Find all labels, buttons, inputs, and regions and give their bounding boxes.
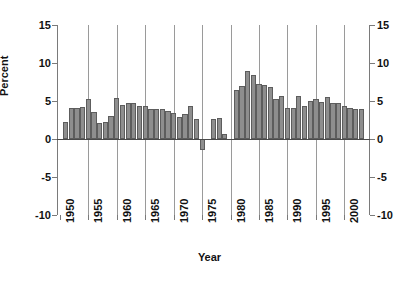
bar bbox=[194, 119, 199, 139]
bar bbox=[239, 86, 244, 139]
x-tick-label: 2000 bbox=[349, 199, 360, 223]
bar-series bbox=[57, 25, 370, 215]
y-tick bbox=[370, 215, 375, 216]
bar bbox=[188, 106, 193, 139]
bar bbox=[296, 96, 301, 139]
y-tick bbox=[370, 139, 375, 140]
y-tick bbox=[52, 215, 57, 216]
x-tick bbox=[202, 215, 203, 220]
x-tick-label: 1985 bbox=[264, 199, 275, 223]
bar bbox=[137, 106, 142, 139]
x-tick bbox=[145, 215, 146, 220]
bar bbox=[120, 105, 125, 139]
bar bbox=[359, 109, 364, 139]
y-tick-label: 5 bbox=[377, 96, 411, 107]
bar bbox=[200, 139, 205, 150]
bar bbox=[268, 87, 273, 139]
y-tick-label: 15 bbox=[377, 20, 411, 31]
bar bbox=[182, 114, 187, 139]
x-tick-label: 1990 bbox=[292, 199, 303, 223]
y-tick-label: 10 bbox=[17, 58, 51, 69]
bar bbox=[69, 108, 74, 139]
bar bbox=[154, 109, 159, 139]
x-tick bbox=[316, 215, 317, 220]
bar bbox=[319, 102, 324, 139]
bar bbox=[86, 99, 91, 139]
y-axis-title: Percent bbox=[0, 56, 10, 96]
x-tick-label: 1960 bbox=[122, 199, 133, 223]
bar bbox=[148, 109, 153, 139]
y-tick-label: -5 bbox=[377, 172, 411, 183]
y-tick-label: -10 bbox=[17, 210, 51, 221]
x-tick-label: 1950 bbox=[65, 199, 76, 223]
x-tick bbox=[231, 215, 232, 220]
y-tick bbox=[370, 63, 375, 64]
y-tick-label: 10 bbox=[377, 58, 411, 69]
bar bbox=[217, 118, 222, 139]
bar bbox=[330, 103, 335, 139]
bar bbox=[302, 106, 307, 139]
x-tick bbox=[174, 215, 175, 220]
y-tick-label: 5 bbox=[17, 96, 51, 107]
x-tick-label: 1980 bbox=[236, 199, 247, 223]
bar bbox=[279, 96, 284, 139]
x-tick bbox=[88, 215, 89, 220]
bar bbox=[103, 122, 108, 139]
bar bbox=[126, 103, 131, 139]
bar bbox=[80, 107, 85, 139]
bar bbox=[171, 113, 176, 139]
bar bbox=[211, 119, 216, 139]
x-tick bbox=[117, 215, 118, 220]
bar bbox=[336, 103, 341, 139]
y-tick-label: 15 bbox=[17, 20, 51, 31]
bar bbox=[91, 112, 96, 139]
x-tick-label: 1995 bbox=[321, 199, 332, 223]
x-tick bbox=[344, 215, 345, 220]
bar bbox=[273, 99, 278, 139]
bar bbox=[262, 85, 267, 139]
bar bbox=[160, 109, 165, 139]
bar bbox=[245, 71, 250, 139]
x-tick-label: 1965 bbox=[150, 199, 161, 223]
bar bbox=[143, 106, 148, 139]
x-axis-title: Year bbox=[0, 251, 419, 263]
chart-figure: Percent Year -10-5051015 -10-5051015 195… bbox=[0, 0, 419, 292]
y-tick bbox=[370, 101, 375, 102]
bar bbox=[234, 90, 239, 139]
y-tick-label: 0 bbox=[17, 134, 51, 145]
y-tick bbox=[370, 25, 375, 26]
x-tick bbox=[259, 215, 260, 220]
x-tick-label: 1975 bbox=[207, 199, 218, 223]
x-tick-label: 1970 bbox=[179, 199, 190, 223]
bar bbox=[74, 108, 79, 139]
x-tick bbox=[60, 215, 61, 220]
y-tick-label: -10 bbox=[377, 210, 411, 221]
bar bbox=[114, 98, 119, 139]
bar bbox=[108, 116, 113, 139]
bar bbox=[347, 108, 352, 139]
bar bbox=[285, 108, 290, 139]
bar bbox=[353, 109, 358, 139]
bar bbox=[313, 99, 318, 139]
bar bbox=[97, 123, 102, 139]
bar bbox=[165, 111, 170, 139]
bar bbox=[325, 97, 330, 139]
plot-area: -10-5051015 -10-5051015 1950195519601965… bbox=[57, 25, 370, 215]
bar bbox=[177, 117, 182, 139]
y-tick-label: 0 bbox=[377, 134, 411, 145]
y-tick-label: -5 bbox=[17, 172, 51, 183]
bar bbox=[291, 108, 296, 139]
zero-baseline bbox=[57, 139, 370, 140]
bar bbox=[342, 106, 347, 139]
x-tick-label: 1955 bbox=[93, 199, 104, 223]
x-tick bbox=[287, 215, 288, 220]
bar bbox=[131, 103, 136, 139]
bar bbox=[256, 84, 261, 139]
bar bbox=[63, 122, 68, 139]
bar bbox=[308, 101, 313, 139]
y-tick bbox=[370, 177, 375, 178]
bar bbox=[251, 75, 256, 139]
